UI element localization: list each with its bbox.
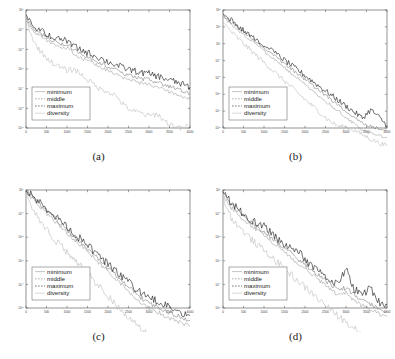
x-tick-label: 0 xyxy=(25,310,27,314)
subplot-caption-a: (a) xyxy=(0,150,197,162)
y-tick-label: 10-4 xyxy=(18,86,24,90)
x-tick-label: 2500 xyxy=(322,310,329,314)
x-tick-label: 2000 xyxy=(302,310,309,314)
x-tick-label: 2000 xyxy=(302,130,309,134)
legend-label-maximum: maximum xyxy=(47,282,73,289)
x-tick-label: 4000 xyxy=(187,130,194,134)
legend-label-minimum: minimum xyxy=(47,88,72,95)
subplot-b: 0500100015002000250030003500400010210110… xyxy=(197,0,394,179)
x-tick-label: 3500 xyxy=(166,130,173,134)
subplot-caption-b: (b) xyxy=(197,150,394,162)
legend-label-maximum: maximum xyxy=(244,282,270,289)
y-tick-label: 10-5 xyxy=(18,106,24,110)
legend-label-diversity: diversity xyxy=(47,289,70,296)
y-tick-label: 10-6 xyxy=(18,126,24,130)
y-tick-label: 10-1 xyxy=(215,58,221,62)
y-tick-label: 10-4 xyxy=(18,282,24,286)
x-tick-label: 1000 xyxy=(64,130,71,134)
x-tick-label: 3000 xyxy=(146,310,153,314)
x-tick-label: 3500 xyxy=(363,310,370,314)
y-tick-label: 100 xyxy=(216,42,221,46)
x-tick-label: 500 xyxy=(241,130,246,134)
y-tick-label: 100 xyxy=(19,188,24,192)
legend-label-maximum: maximum xyxy=(244,102,270,109)
x-tick-label: 0 xyxy=(222,310,224,314)
y-tick-label: 10-4 xyxy=(215,109,221,113)
x-tick-label: 2000 xyxy=(105,310,112,314)
x-tick-label: 3000 xyxy=(146,130,153,134)
plot-area-a: 0500100015002000250030003500400010010-11… xyxy=(0,0,197,152)
x-tick-label: 1500 xyxy=(84,130,91,134)
x-tick-label: 3000 xyxy=(343,310,350,314)
y-tick-label: 10-5 xyxy=(18,306,24,310)
subplot-caption-c: (c) xyxy=(0,330,197,342)
x-tick-label: 2500 xyxy=(322,130,329,134)
x-tick-label: 1500 xyxy=(281,310,288,314)
figure-2x2-convergence-plots: 0500100015002000250030003500400010010-11… xyxy=(0,0,395,359)
y-tick-label: 100 xyxy=(216,188,221,192)
legend-label-diversity: diversity xyxy=(244,109,267,116)
y-tick-label: 10-4 xyxy=(215,282,221,286)
x-tick-label: 500 xyxy=(44,310,49,314)
legend-label-middle: middle xyxy=(244,95,263,102)
plot-area-b: 0500100015002000250030003500400010210110… xyxy=(197,0,394,152)
y-tick-label: 10-5 xyxy=(215,306,221,310)
legend-label-middle: middle xyxy=(47,275,66,282)
legend-label-minimum: minimum xyxy=(47,268,72,275)
y-tick-label: 10-3 xyxy=(215,259,221,263)
y-tick-label: 10-2 xyxy=(215,235,221,239)
y-tick-label: 10-3 xyxy=(215,92,221,96)
plot-area-c: 0500100015002000250030003500400010010-11… xyxy=(0,180,197,332)
x-tick-label: 2000 xyxy=(105,130,112,134)
x-tick-label: 500 xyxy=(44,130,49,134)
y-tick-label: 10-1 xyxy=(215,211,221,215)
x-tick-label: 1000 xyxy=(261,310,268,314)
legend-label-diversity: diversity xyxy=(244,289,267,296)
subplot-c: 0500100015002000250030003500400010010-11… xyxy=(0,180,197,359)
x-tick-label: 4000 xyxy=(384,310,391,314)
x-tick-label: 500 xyxy=(241,310,246,314)
y-tick-label: 102 xyxy=(216,8,221,12)
legend-label-minimum: minimum xyxy=(244,268,269,275)
legend-label-diversity: diversity xyxy=(47,109,70,116)
x-tick-label: 2500 xyxy=(125,310,132,314)
x-tick-label: 1500 xyxy=(84,310,91,314)
plot-area-d: 0500100015002000250030003500400010010-11… xyxy=(197,180,394,332)
y-tick-label: 10-2 xyxy=(18,235,24,239)
x-tick-label: 1000 xyxy=(64,310,71,314)
subplot-a: 0500100015002000250030003500400010010-11… xyxy=(0,0,197,179)
y-tick-label: 10-3 xyxy=(18,67,24,71)
y-tick-label: 101 xyxy=(216,25,221,29)
x-tick-label: 0 xyxy=(222,130,224,134)
subplot-caption-d: (d) xyxy=(197,330,394,342)
y-tick-label: 100 xyxy=(19,8,24,12)
legend-label-middle: middle xyxy=(244,275,263,282)
subplot-d: 0500100015002000250030003500400010010-11… xyxy=(197,180,394,359)
legend-label-middle: middle xyxy=(47,95,66,102)
x-tick-label: 2500 xyxy=(125,130,132,134)
x-tick-label: 0 xyxy=(25,130,27,134)
y-tick-label: 10-5 xyxy=(215,126,221,130)
y-tick-label: 10-1 xyxy=(18,27,24,31)
legend-label-minimum: minimum xyxy=(244,88,269,95)
y-tick-label: 10-1 xyxy=(18,211,24,215)
x-tick-label: 1000 xyxy=(261,130,268,134)
y-tick-label: 10-2 xyxy=(18,47,24,51)
y-tick-label: 10-2 xyxy=(215,75,221,79)
legend-label-maximum: maximum xyxy=(47,102,73,109)
x-tick-label: 4000 xyxy=(187,310,194,314)
x-tick-label: 1500 xyxy=(281,130,288,134)
y-tick-label: 10-3 xyxy=(18,259,24,263)
